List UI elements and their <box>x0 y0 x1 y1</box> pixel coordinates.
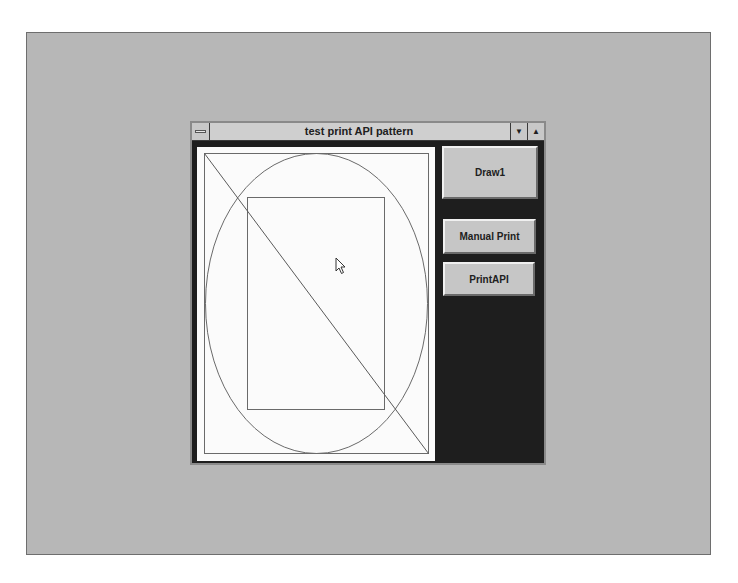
title-bar[interactable]: test print API pattern ▼ ▲ <box>192 123 544 141</box>
app-window: test print API pattern ▼ ▲ Draw1 Manual … <box>190 121 546 465</box>
maximize-arrow-icon: ▲ <box>532 127 540 136</box>
print-api-button[interactable]: PrintAPI <box>443 262 535 296</box>
draw1-button[interactable]: Draw1 <box>442 146 538 199</box>
system-menu-button[interactable] <box>192 123 210 140</box>
diagonal-line <box>205 154 429 454</box>
mouse-pointer-icon <box>335 257 347 275</box>
manual-print-button[interactable]: Manual Print <box>443 219 536 254</box>
drawing-graphics <box>197 147 435 461</box>
window-title: test print API pattern <box>210 123 508 140</box>
maximize-button[interactable]: ▲ <box>527 123 544 140</box>
drawing-canvas[interactable] <box>197 147 435 461</box>
minimize-button[interactable]: ▼ <box>510 123 527 140</box>
minimize-arrow-icon: ▼ <box>515 127 523 136</box>
system-menu-icon <box>195 130 206 133</box>
